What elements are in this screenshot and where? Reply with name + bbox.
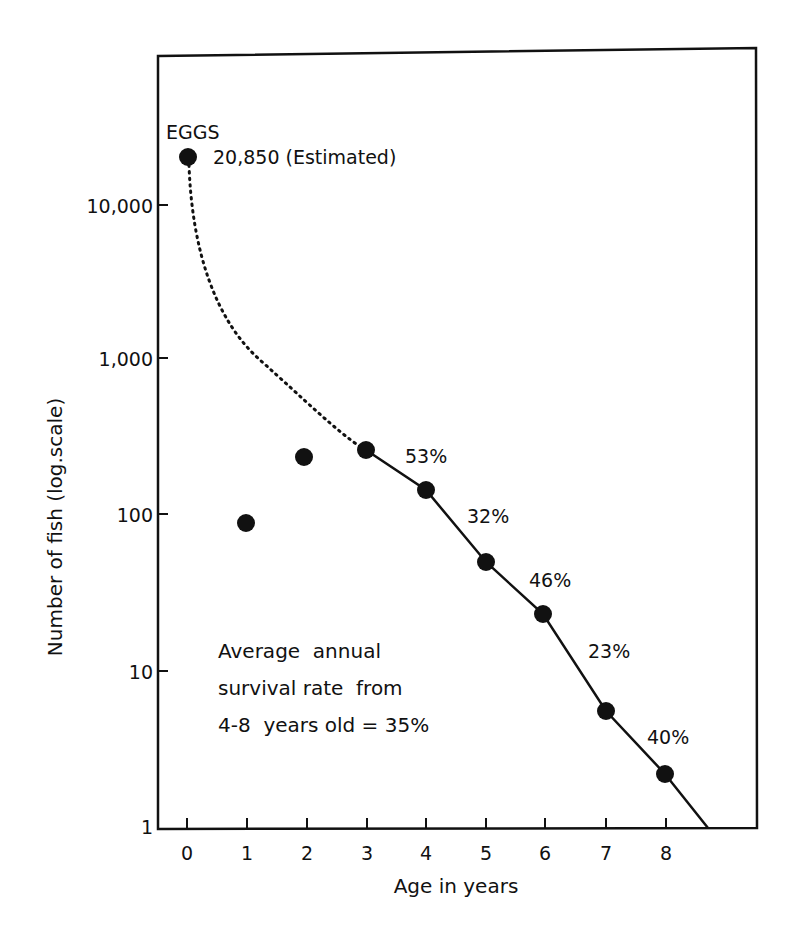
point-age-3 <box>357 441 375 459</box>
rate-label-4-5: 32% <box>467 505 509 527</box>
x-axis-tick-labels: 0 1 2 3 4 5 6 7 8 <box>181 842 672 864</box>
eggs-value-label: 20,850 (Estimated) <box>213 146 396 168</box>
rate-label-7-8: 40% <box>647 726 689 748</box>
rate-label-5-6: 46% <box>529 569 571 591</box>
x-tick-0: 0 <box>181 842 193 864</box>
x-tick-1: 1 <box>241 842 253 864</box>
y-tick-1000: 1,000 <box>99 348 153 370</box>
point-age-8 <box>656 765 674 783</box>
y-tick-1: 1 <box>141 816 153 838</box>
note-line-1: Average annual <box>218 639 381 663</box>
point-age-2 <box>295 448 313 466</box>
survival-chart: 10,000 1,000 100 10 1 0 1 2 3 4 5 6 7 8 … <box>0 0 791 929</box>
x-tick-3: 3 <box>361 842 373 864</box>
y-tick-100: 100 <box>117 504 153 526</box>
x-axis-title: Age in years <box>394 874 519 898</box>
point-age-7 <box>597 702 615 720</box>
y-tick-10: 10 <box>129 661 153 683</box>
point-age-5 <box>477 553 495 571</box>
note-line-3: 4-8 years old = 35% <box>218 713 429 737</box>
x-tick-2: 2 <box>301 842 313 864</box>
y-tick-10000: 10,000 <box>87 195 153 217</box>
x-tick-6: 6 <box>539 842 551 864</box>
x-tick-5: 5 <box>480 842 492 864</box>
point-age-6 <box>534 605 552 623</box>
y-axis-tick-labels: 10,000 1,000 100 10 1 <box>87 195 153 838</box>
survival-note: Average annual survival rate from 4-8 ye… <box>218 639 429 737</box>
rate-label-3-4: 53% <box>405 445 447 467</box>
note-line-2: survival rate from <box>218 676 403 700</box>
point-age-4 <box>417 481 435 499</box>
estimated-curve <box>189 165 362 448</box>
x-tick-8: 8 <box>660 842 672 864</box>
point-age-1 <box>237 514 255 532</box>
y-axis-ticks <box>158 205 168 671</box>
x-tick-7: 7 <box>600 842 612 864</box>
rate-label-6-7: 23% <box>588 640 630 662</box>
y-axis-title: Number of fish (log.scale) <box>43 398 67 656</box>
point-eggs <box>179 148 197 166</box>
eggs-label: EGGS <box>166 121 220 143</box>
x-tick-4: 4 <box>420 842 432 864</box>
